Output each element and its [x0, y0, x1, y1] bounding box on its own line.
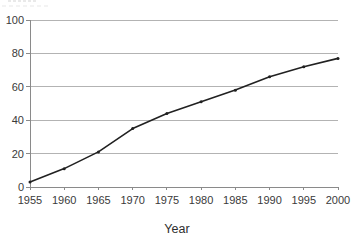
- y-tick-label: 0: [18, 181, 24, 193]
- cropped-text-artifact: [2, 1, 50, 6]
- y-tick-label: 80: [12, 47, 24, 59]
- data-point-marker: [131, 127, 134, 130]
- data-point-marker: [97, 150, 100, 153]
- x-tick-label: 1965: [86, 194, 110, 206]
- y-tick-label: 40: [12, 114, 24, 126]
- x-tick-label: 1975: [155, 194, 179, 206]
- data-point-marker: [268, 75, 271, 78]
- data-point-marker: [200, 100, 203, 103]
- chart-container: 0204060801001955196019651970197519801985…: [0, 0, 355, 245]
- data-point-marker: [63, 167, 66, 170]
- x-tick-label: 1980: [189, 194, 213, 206]
- data-point-marker: [29, 180, 32, 183]
- line-chart: 0204060801001955196019651970197519801985…: [0, 0, 355, 245]
- data-point-marker: [337, 57, 340, 60]
- y-tick-label: 100: [6, 14, 24, 26]
- x-tick-label: 1985: [223, 194, 247, 206]
- x-axis-title: Year: [164, 222, 189, 236]
- x-tick-label: 1955: [18, 194, 42, 206]
- x-tick-label: 1970: [120, 194, 144, 206]
- data-point-marker: [165, 112, 168, 115]
- data-point-marker: [302, 65, 305, 68]
- y-tick-label: 60: [12, 81, 24, 93]
- x-tick-label: 1960: [52, 194, 76, 206]
- x-tick-label: 2000: [326, 194, 350, 206]
- data-point-marker: [234, 89, 237, 92]
- x-tick-label: 1995: [292, 194, 316, 206]
- x-tick-label: 1990: [257, 194, 281, 206]
- y-tick-label: 20: [12, 148, 24, 160]
